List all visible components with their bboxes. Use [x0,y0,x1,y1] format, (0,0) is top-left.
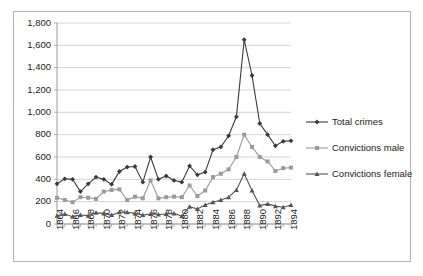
x-axis-tick-label: 1864 [54,209,65,230]
y-axis-tick-label: 800 [35,128,51,139]
data-point-marker [102,190,106,194]
x-axis-tick-label: 1876 [148,209,159,230]
data-point-marker [149,178,153,182]
data-point-marker [133,164,138,169]
x-axis-tick-label: 1868 [85,209,96,230]
series-line [57,135,291,203]
x-axis-tick-label: 1892 [272,209,283,230]
y-axis-tick-label: 1,800 [27,17,51,28]
y-axis-tick-label: 1,200 [27,84,51,95]
x-axis-tick-label: 1888 [241,209,252,230]
data-point-marker [315,120,320,125]
data-point-marker [180,195,184,199]
x-axis-tick-label: 1894 [288,209,299,230]
data-point-marker [203,189,207,193]
data-point-marker [117,187,121,191]
data-point-marker [179,180,184,185]
x-axis-tick-label: 1880 [179,209,190,230]
y-axis-tick-label: 600 [35,151,51,162]
data-point-marker [203,170,208,175]
chart-frame: 02004006008001,0001,2001,4001,6001,800 1… [13,11,411,262]
data-point-marker [250,73,255,78]
data-point-marker [187,204,192,209]
data-point-marker [133,195,137,199]
data-point-marker [78,195,82,199]
data-point-marker [211,147,216,152]
x-axis-tick-label: 1870 [101,209,112,230]
x-axis-tick-label: 1874 [132,209,143,230]
data-point-marker [250,145,254,149]
data-point-marker [234,155,238,159]
data-point-marker [234,114,239,119]
data-point-marker [211,175,215,179]
gridlines [57,23,291,224]
series-convictions-male [55,133,293,205]
data-point-marker [227,167,231,171]
line-chart: 02004006008001,0001,2001,4001,6001,800 1… [14,12,412,263]
data-point-marker [281,166,285,170]
data-point-marker [125,165,130,170]
chart-plot-area: 02004006008001,0001,2001,4001,6001,800 1… [14,12,412,263]
x-axis-tick-labels: 1864186618681870187218741876187818801882… [54,209,299,230]
data-series-group [55,37,294,218]
data-point-marker [265,201,270,206]
legend-item-convictions-male[interactable]: Convictions male [306,142,404,153]
data-point-marker [172,178,177,183]
data-point-marker [250,188,255,193]
x-axis-tick-label: 1878 [163,209,174,230]
legend-label: Convictions female [332,168,412,179]
data-point-marker [117,169,122,174]
data-point-marker [315,146,319,150]
x-axis-tick-label: 1882 [194,209,205,230]
legend-item-convictions-female[interactable]: Convictions female [306,168,412,179]
axes [57,23,291,224]
data-point-marker [195,194,199,198]
data-point-marker [242,133,246,137]
data-point-marker [156,177,161,182]
data-point-marker [71,200,75,204]
data-point-marker [242,37,247,42]
x-axis-tick-label: 1866 [70,209,81,230]
y-axis-tick-label: 1,000 [27,106,51,117]
data-point-marker [140,180,145,185]
data-point-marker [289,166,293,170]
series-line [57,40,291,192]
data-point-marker [55,196,59,200]
data-point-marker [164,174,169,179]
data-point-marker [156,196,160,200]
data-point-marker [289,203,294,208]
legend-label: Total crimes [332,116,383,127]
data-point-marker [188,183,192,187]
data-point-marker [164,195,168,199]
data-point-marker [258,155,262,159]
data-point-marker [148,155,153,160]
x-axis-tick-label: 1890 [257,209,268,230]
data-point-marker [110,188,114,192]
data-point-marker [125,198,129,202]
legend-label: Convictions male [332,142,404,153]
data-point-marker [94,197,98,201]
data-point-marker [289,138,294,143]
data-point-marker [141,196,145,200]
y-axis-tick-label: 1,400 [27,61,51,72]
data-point-marker [172,195,176,199]
y-axis-tick-labels: 02004006008001,0001,2001,4001,6001,800 [27,17,57,229]
data-point-marker [234,187,239,192]
x-axis-tick-label: 1884 [210,209,221,230]
data-point-marker [273,169,277,173]
data-point-marker [63,198,67,202]
y-axis-tick-label: 0 [46,218,51,229]
y-axis-tick-label: 200 [35,195,51,206]
series-total-crimes [55,37,294,194]
data-point-marker [219,172,223,176]
data-point-marker [86,196,90,200]
data-point-marker [266,159,270,163]
x-axis-tick-label: 1886 [226,209,237,230]
data-point-marker [242,171,247,176]
data-point-marker [281,139,286,144]
legend-item-total-crimes[interactable]: Total crimes [306,116,383,127]
y-axis-tick-label: 400 [35,173,51,184]
y-axis-tick-label: 1,600 [27,39,51,50]
chart-legend: Total crimesConvictions maleConvictions … [306,116,412,179]
